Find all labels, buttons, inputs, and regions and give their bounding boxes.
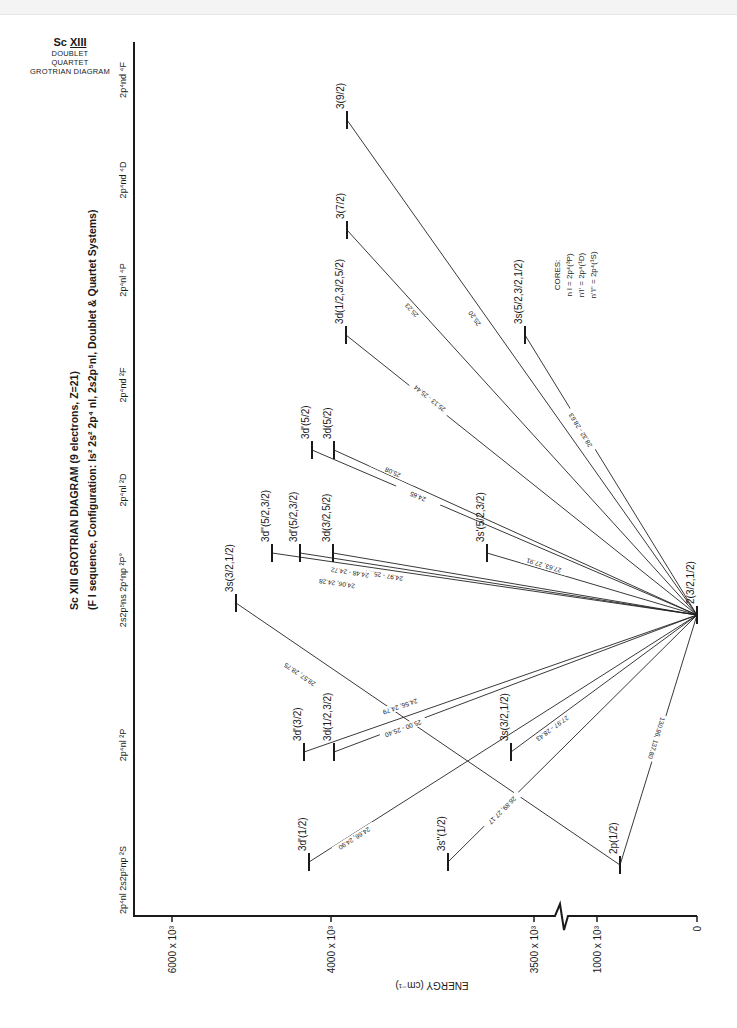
cores-title: CORES: bbox=[553, 260, 562, 291]
transition-line bbox=[333, 553, 697, 615]
transition: 24.97 - 25.34 bbox=[333, 553, 697, 615]
term-column-label: 2p⁴nl ⁴P bbox=[118, 263, 128, 296]
transition-line bbox=[347, 120, 697, 615]
title-line-2: (F I sequence, Configuration: ls² 2s² 2p… bbox=[86, 210, 98, 610]
transition-line bbox=[312, 450, 697, 615]
transition: 25.20 bbox=[347, 120, 697, 615]
level-label: 3(7/2) bbox=[335, 193, 346, 219]
energy-levels: 2(3/2,1/2)2p(1/2)3d'(1/2)3s''(1/2)3d'(3/… bbox=[224, 83, 697, 874]
term-column-label: 2p⁴nl ²D bbox=[118, 473, 128, 506]
energy-level: 3d'(5/2,3/2) bbox=[288, 492, 300, 562]
energy-level: 3s(3/2,1/2) bbox=[499, 693, 511, 761]
transition: 27.63, 27.91 bbox=[487, 553, 697, 615]
transition-line bbox=[511, 615, 697, 752]
level-label: 3s(3/2,1/2) bbox=[499, 693, 510, 741]
energy-level: 3s''(1/2) bbox=[436, 816, 448, 871]
term-column-label: 2p⁴nl 2s2p⁵np ²S bbox=[118, 846, 128, 914]
term-column-label: 2s2p⁵ns 2p⁴np ²P° bbox=[118, 552, 128, 627]
energy-level: 3d(1/2,3/2,5/2) bbox=[334, 259, 346, 344]
level-label: 3d(1/2,3/2) bbox=[322, 693, 333, 741]
energy-level: 3(7/2) bbox=[335, 193, 347, 239]
cores-line: n''l'' = 2p⁴(¹S) bbox=[589, 251, 598, 298]
energy-tick-label: 0 bbox=[692, 926, 703, 932]
term-column-label: 2p⁴nl ²P bbox=[118, 729, 128, 761]
energy-level: 3s(5/2,3/2,1/2) bbox=[513, 260, 525, 344]
transition-lines: 25.2025.2325.13 - 25.4428.32 - 28.6325.0… bbox=[236, 120, 697, 865]
wavelength-label: 25.13 - 25.44 bbox=[412, 384, 447, 414]
wavelength-label: 26.89, 27.17 bbox=[487, 795, 518, 826]
transition: 28.32 - 28.63 bbox=[525, 335, 697, 615]
level-label: 3d(3/2,5/2) bbox=[321, 494, 332, 542]
energy-level: 3s(3/2,1/2) bbox=[224, 544, 236, 612]
level-label: 3(9/2) bbox=[335, 83, 346, 109]
energy-level: 3d(5/2) bbox=[322, 407, 334, 459]
transition: 130.96, 137.80 bbox=[620, 615, 697, 865]
level-label: 3d'(5/2) bbox=[300, 405, 311, 439]
wavelength-label: 27.97 - 28.43 bbox=[535, 714, 570, 743]
energy-level: 2p(1/2) bbox=[608, 822, 620, 874]
cores-line: n l = 2p⁴(³P) bbox=[565, 253, 574, 297]
energy-level: 3(9/2) bbox=[335, 83, 347, 129]
energy-tick-label: 1000 x 10³ bbox=[592, 925, 603, 973]
level-label: 3d(1/2,3/2,5/2) bbox=[334, 259, 345, 324]
energy-tick-label: 6000 x 10³ bbox=[167, 925, 178, 973]
transition-line bbox=[487, 553, 697, 615]
term-column-label: 2p⁴nd ⁴F bbox=[118, 62, 128, 98]
title-line-1: Sc XIII GROTRIAN DIAGRAM (9 electrons, Z… bbox=[68, 371, 80, 610]
energy-level: 3d'(3/2) bbox=[292, 707, 304, 761]
term-column-label: 2p⁴nd ²F bbox=[118, 367, 128, 402]
grotrian-diagram: Sc XIII GROTRIAN DIAGRAM (9 electrons, Z… bbox=[0, 0, 737, 1028]
transition: 27.97 - 28.43 bbox=[511, 615, 697, 752]
transition: 25.00 - 25.40 bbox=[334, 615, 697, 752]
level-label: 2(3/2,1/2) bbox=[685, 561, 696, 604]
level-label: 3s(3/2,1/2) bbox=[224, 544, 235, 592]
energy-level: 3s'(5/2,3/2) bbox=[475, 492, 487, 562]
energy-level: 3d(1/2,3/2) bbox=[322, 693, 334, 761]
level-label: 3s'(5/2,3/2) bbox=[475, 492, 486, 542]
cores-line: n'l' = 2p⁴(¹D) bbox=[577, 252, 586, 297]
level-label: 3d''(5/2,3/2) bbox=[260, 490, 271, 542]
level-label: 3d(5/2) bbox=[322, 407, 333, 439]
level-label: 3d'(5/2,3/2) bbox=[288, 492, 299, 542]
diagram-title: Sc XIII GROTRIAN DIAGRAM (9 electrons, Z… bbox=[68, 210, 98, 610]
wavelength-label: 28.57, 28.75 bbox=[282, 661, 316, 687]
level-label: 3s(5/2,3/2,1/2) bbox=[513, 260, 524, 324]
level-label: 3s''(1/2) bbox=[436, 816, 447, 851]
energy-tick-label: 4000 x 10³ bbox=[326, 925, 337, 973]
transition-line bbox=[525, 335, 697, 615]
energy-axis bbox=[133, 904, 697, 930]
energy-tick-label: 3500 x 10³ bbox=[529, 925, 540, 973]
level-label: 2p(1/2) bbox=[608, 822, 619, 854]
energy-level: 3d'(5/2) bbox=[300, 405, 312, 459]
wavelength-label: 24.66, 24.90 bbox=[337, 826, 372, 852]
energy-level: 3d''(5/2,3/2) bbox=[260, 490, 272, 562]
transition: 24.65 bbox=[312, 450, 697, 615]
wavelength-label: 28.32 - 28.63 bbox=[567, 412, 593, 449]
energy-level: 3d'(1/2) bbox=[297, 817, 309, 871]
term-columns: 2p⁴nl 2s2p⁵np ²S2p⁴nl ²P2s2p⁵ns 2p⁴np ²P… bbox=[118, 62, 128, 914]
energy-axis-label: ENERGY (cm⁻¹) bbox=[395, 980, 468, 991]
energy-ticks: 6000 x 10³4000 x 10³3500 x 10³1000 x 10³… bbox=[167, 916, 703, 973]
level-label: 3d'(3/2) bbox=[292, 707, 303, 741]
level-label: 3d'(1/2) bbox=[297, 817, 308, 851]
transition: 25.08 bbox=[334, 450, 697, 615]
energy-level: 3d(3/2,5/2) bbox=[321, 494, 333, 562]
term-column-label: 2p⁴nd ⁴D bbox=[118, 161, 128, 198]
transition: 24.06, 24.28 bbox=[272, 553, 697, 615]
cores-legend: CORES: n l = 2p⁴(³P) n'l' = 2p⁴(¹D) n''l… bbox=[553, 251, 598, 298]
